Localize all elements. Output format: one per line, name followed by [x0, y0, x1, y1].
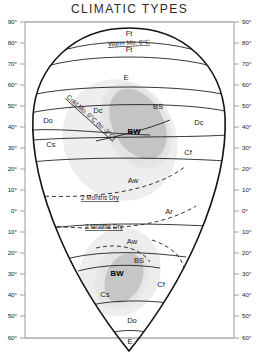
right-tick-30s: 30° — [242, 270, 252, 277]
left-tick-50s: 50° — [8, 312, 18, 319]
page-title: CLIMATIC TYPES — [0, 2, 259, 16]
region-label-aw-north: Aw — [128, 176, 139, 185]
region-label-dc-north-west: Dc — [93, 106, 102, 115]
left-axis: 90° 80° 70° 60° 50° 40° 30° 20° 10° 0° 1… — [8, 18, 25, 341]
right-tick-30n: 30° — [242, 144, 252, 151]
left-tick-40n: 40° — [8, 123, 18, 130]
left-tick-50n: 50° — [8, 102, 18, 109]
left-tick-20n: 20° — [8, 165, 18, 172]
climate-diagram-svg: 90° 80° 70° 60° 50° 40° 30° 20° 10° 0° 1… — [0, 0, 259, 361]
left-tick-60n: 60° — [8, 81, 18, 88]
annotation-warm-month-0c: Warm Mo. 0°C — [108, 38, 150, 47]
region-label-dc-north-east: Dc — [194, 118, 203, 127]
left-tick-60s: 60° — [8, 334, 18, 341]
region-label-bw-south: BW — [111, 269, 125, 278]
region-label-ft-north-lower: Ft — [126, 45, 134, 54]
left-tick-70n: 70° — [8, 60, 18, 67]
region-label-bs-north: BS — [153, 102, 163, 111]
annotation-2-months-dry-north: 2 Months Dry — [81, 194, 120, 202]
region-label-cf-south: Cf — [157, 280, 165, 289]
annotation-2-months-dry-south: 2 Months Dry — [85, 223, 124, 231]
region-label-cs-south: Cs — [100, 290, 109, 299]
right-tick-90n: 90° — [242, 18, 252, 25]
right-tick-20s: 20° — [242, 249, 252, 256]
right-tick-60n: 60° — [242, 81, 252, 88]
left-axis-ticks — [20, 22, 25, 338]
left-tick-0: 0° — [11, 207, 17, 214]
region-label-do-south: Do — [127, 316, 137, 325]
region-label-e-north: E — [123, 73, 128, 82]
arid-shading — [41, 59, 198, 329]
left-tick-40s: 40° — [8, 291, 18, 298]
right-tick-10s: 10° — [242, 228, 252, 235]
boundary-ft-e — [30, 57, 228, 72]
left-tick-10s: 10° — [8, 228, 18, 235]
region-label-bs-south: BS — [134, 256, 144, 265]
right-tick-60s: 60° — [242, 334, 252, 341]
left-tick-10n: 10° — [8, 186, 18, 193]
climatic-types-figure: CLIMATIC TYPES — [0, 0, 259, 361]
left-tick-90n: 90° — [8, 18, 18, 25]
right-tick-50s: 50° — [242, 312, 252, 319]
right-tick-0: 0° — [242, 207, 248, 214]
region-label-bw-north: BW — [128, 127, 142, 136]
left-tick-20s: 20° — [8, 249, 18, 256]
region-label-cs-north: Cs — [46, 140, 55, 149]
region-label-ft-north-upper: Ft — [126, 29, 134, 38]
left-tick-30s: 30° — [8, 270, 18, 277]
left-tick-80n: 80° — [8, 39, 18, 46]
region-label-e-south: E — [127, 337, 132, 346]
region-label-aw-south: Aw — [127, 237, 138, 246]
right-tick-40n: 40° — [242, 123, 252, 130]
right-axis: 90° 80° 70° 60° 50° 40° 30° 20° 10° 0° 1… — [234, 18, 252, 341]
right-tick-70n: 70° — [242, 60, 252, 67]
right-axis-ticks — [234, 22, 239, 338]
right-tick-40s: 40° — [242, 291, 252, 298]
region-label-cf-north: Cf — [184, 148, 192, 157]
right-tick-50n: 50° — [242, 102, 252, 109]
right-tick-80n: 80° — [242, 39, 252, 46]
left-tick-30n: 30° — [8, 144, 18, 151]
right-tick-20n: 20° — [242, 165, 252, 172]
region-label-do-north: Do — [43, 116, 53, 125]
boundary-do-e-south — [114, 331, 146, 333]
right-tick-10n: 10° — [242, 186, 252, 193]
region-label-ar: Ar — [165, 207, 173, 216]
